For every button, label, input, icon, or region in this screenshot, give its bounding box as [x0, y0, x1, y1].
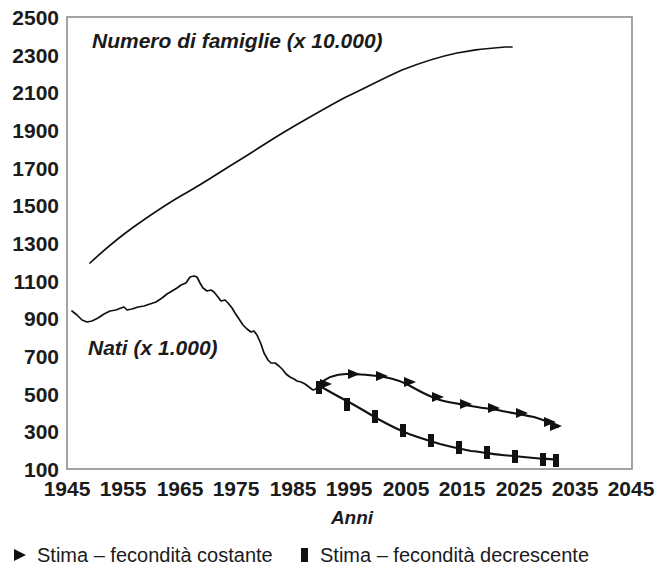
y-tick-label: 1300 [12, 232, 59, 255]
chart-container: 2500 2300 2100 1900 1700 1500 1300 1100 … [0, 0, 661, 572]
y-tick-label: 1500 [12, 194, 59, 217]
x-tick-label: 1965 [157, 477, 204, 500]
x-tick-label: 2025 [496, 477, 543, 500]
famiglie-series-label: Numero di famiglie (x 10.000) [92, 29, 383, 52]
legend-label-costante: Stima – fecondità costante [37, 544, 273, 566]
square-marker [400, 424, 406, 437]
y-tick-label: 300 [24, 420, 59, 443]
y-tick-label: 1100 [13, 270, 59, 293]
square-marker [344, 398, 350, 411]
square-marker [553, 454, 559, 467]
population-births-chart: 2500 2300 2100 1900 1700 1500 1300 1100 … [0, 0, 661, 572]
y-tick-label: 700 [24, 345, 59, 368]
square-marker [428, 434, 434, 447]
x-tick-label: 1995 [326, 477, 373, 500]
square-marker [512, 450, 518, 463]
square-marker [484, 446, 490, 459]
square-marker [372, 410, 378, 423]
x-tick-label: 1955 [100, 477, 147, 500]
y-tick-label: 2100 [12, 81, 59, 104]
nati-series-label: Nati (x 1.000) [88, 336, 218, 359]
square-marker [316, 381, 322, 394]
y-tick-label: 2500 [12, 6, 59, 29]
y-tick-label: 900 [24, 307, 59, 330]
y-tick-label: 1700 [12, 157, 59, 180]
x-tick-label: 1975 [213, 477, 260, 500]
x-tick-label: 1945 [44, 477, 91, 500]
y-tick-label: 2300 [12, 44, 59, 67]
square-marker [540, 453, 546, 466]
x-tick-label: 2005 [383, 477, 430, 500]
y-tick-label: 500 [24, 383, 59, 406]
y-tick-label: 1900 [12, 119, 59, 142]
legend-label-decrescente: Stima – fecondità decrescente [320, 544, 589, 566]
legend-square-icon [301, 548, 308, 562]
x-tick-label: 2035 [552, 477, 599, 500]
x-tick-label: 1985 [270, 477, 317, 500]
x-tick-label: 2015 [439, 477, 486, 500]
x-axis-title: Anni [330, 507, 374, 528]
square-marker [456, 441, 462, 454]
x-tick-label: 2045 [608, 477, 655, 500]
